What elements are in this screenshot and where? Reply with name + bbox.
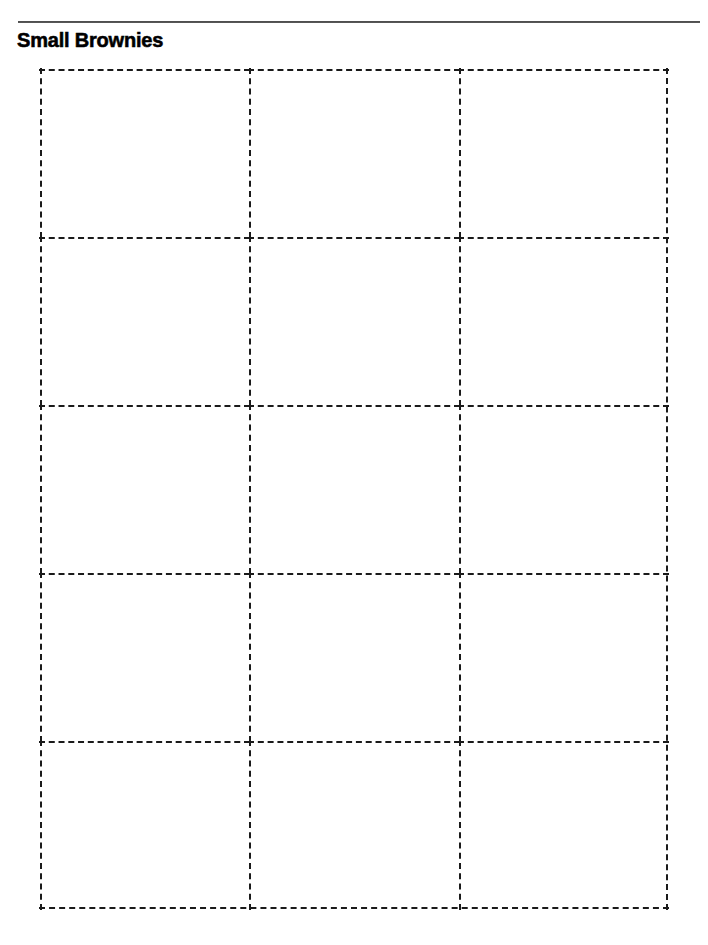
grid-cell[interactable] [249, 69, 458, 237]
grid-cell[interactable] [459, 741, 668, 909]
cut-grid [40, 69, 668, 909]
grid-cell[interactable] [40, 741, 249, 909]
grid-cell[interactable] [40, 69, 249, 237]
cut-grid-cells [40, 69, 668, 909]
grid-cell[interactable] [459, 69, 668, 237]
grid-cell[interactable] [249, 405, 458, 573]
grid-cell[interactable] [40, 405, 249, 573]
page-title: Small Brownies [17, 28, 163, 52]
grid-cell[interactable] [249, 741, 458, 909]
header-divider-rule [18, 21, 700, 23]
grid-cell[interactable] [40, 237, 249, 405]
grid-cell[interactable] [459, 405, 668, 573]
grid-cell[interactable] [40, 573, 249, 741]
grid-cell[interactable] [459, 237, 668, 405]
grid-cell[interactable] [249, 573, 458, 741]
document-page: Small Brownies [0, 0, 708, 945]
grid-cell[interactable] [249, 237, 458, 405]
grid-cell[interactable] [459, 573, 668, 741]
